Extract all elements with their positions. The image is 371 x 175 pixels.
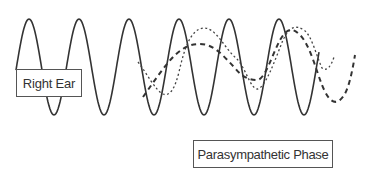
parasympathetic-phase-label: Parasympathetic Phase <box>193 140 333 168</box>
right-ear-label: Right Ear <box>16 69 82 97</box>
dashed-wave <box>143 30 355 102</box>
solid-sine-wave <box>16 19 319 115</box>
